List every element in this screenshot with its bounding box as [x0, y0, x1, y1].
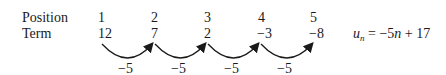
- formula-subscript: n: [360, 33, 365, 43]
- difference-4: −5: [277, 62, 292, 75]
- difference-2: −5: [171, 62, 186, 75]
- formula-coeff: = −5: [368, 26, 394, 41]
- formula-var: n: [394, 26, 401, 41]
- formula-u: u: [353, 26, 360, 41]
- formula: un = −5n + 17: [353, 27, 430, 43]
- difference-1: −5: [118, 62, 133, 75]
- formula-constant: + 17: [405, 26, 430, 41]
- difference-3: −5: [224, 62, 239, 75]
